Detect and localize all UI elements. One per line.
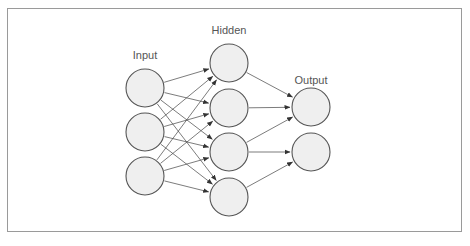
edge-h1-to-o1 [247, 73, 293, 98]
edge-h4-to-o2 [247, 162, 293, 187]
input-node-2 [126, 113, 164, 151]
hidden-layer-label: Hidden [212, 24, 247, 36]
edge-i3-to-h1 [157, 80, 217, 160]
edge-i3-to-h3 [164, 158, 209, 171]
neural-network-diagram: Input Hidden Output [0, 0, 470, 246]
edge-i2-to-h1 [161, 76, 213, 119]
hidden-node-3 [210, 133, 248, 171]
edge-h2-to-o1 [249, 107, 290, 108]
input-layer-label: Input [133, 49, 157, 61]
input-node-1 [126, 69, 164, 107]
hidden-node-4 [210, 178, 248, 216]
output-node-1 [292, 88, 330, 126]
nodes-group [126, 44, 330, 216]
input-node-3 [126, 157, 164, 195]
edge-i3-to-h2 [161, 121, 213, 163]
output-node-2 [292, 133, 330, 171]
edge-i2-to-h3 [165, 137, 209, 148]
output-layer-label: Output [294, 74, 327, 86]
hidden-node-1 [210, 44, 248, 82]
hidden-node-2 [210, 89, 248, 127]
edges-group [157, 69, 293, 192]
edge-i1-to-h1 [164, 69, 209, 82]
edge-h3-to-o1 [247, 117, 293, 142]
edge-i3-to-h4 [164, 181, 208, 192]
